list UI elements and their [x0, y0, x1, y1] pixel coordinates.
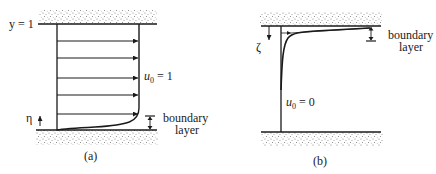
panel-b: ζ u0 = 0 boundary layer (b) — [256, 12, 433, 168]
boundary-label-a-line2: layer — [175, 123, 199, 137]
zeta-label: ζ — [256, 40, 261, 54]
eta-label: η — [26, 111, 32, 125]
velocity-label-a: u0 = 1 — [144, 69, 173, 85]
boundary-label-b-line2: layer — [399, 40, 423, 54]
bottom-wall-a — [36, 130, 158, 145]
top-wall-b — [260, 12, 382, 26]
bottom-wall-b — [261, 132, 383, 146]
boundary-layer-bracket-a — [145, 116, 155, 130]
boundary-layer-bracket-b — [366, 27, 376, 41]
panel-a: y = 1 u0 = 1 η boundary layer (a) — [9, 9, 208, 163]
top-wall-a — [39, 9, 157, 24]
boundary-layer-figure: y = 1 u0 = 1 η boundary layer (a) — [0, 0, 436, 174]
velocity-arrows-a — [57, 41, 138, 114]
velocity-label-b: u0 = 0 — [286, 95, 315, 111]
top-label-a: y = 1 — [9, 17, 34, 31]
caption-a: (a) — [84, 149, 97, 163]
velocity-profile-b — [281, 28, 370, 90]
caption-b: (b) — [313, 154, 327, 168]
